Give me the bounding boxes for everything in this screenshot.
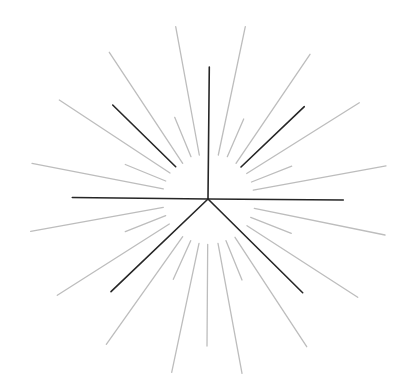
- dark-ray-left: [72, 198, 208, 200]
- gray-ray-line: [106, 237, 182, 345]
- gray-ray-line: [125, 216, 165, 232]
- gray-ray-line: [226, 241, 242, 280]
- dark-ray-lower-right: [208, 199, 303, 293]
- gray-ray-line: [218, 243, 242, 373]
- gray-ray-line: [59, 100, 170, 173]
- dark-ray-up: [208, 67, 209, 199]
- gray-ray-line: [227, 119, 243, 157]
- dark-ray-upper-left: [113, 105, 176, 167]
- radial-burst-diagram: [0, 0, 416, 392]
- gray-ray-line: [218, 27, 245, 155]
- gray-ray-line: [235, 237, 307, 346]
- gray-ray-line: [236, 54, 310, 163]
- gray-ray-line: [57, 224, 169, 295]
- gray-ray-line: [251, 217, 292, 233]
- gray-ray-line: [247, 226, 358, 298]
- gray-ray-line: [176, 27, 200, 155]
- gray-ray-line: [172, 243, 199, 372]
- dark-ray-lower-left: [111, 199, 208, 292]
- gray-ray-line: [247, 103, 360, 174]
- gray-ray-line: [207, 244, 208, 346]
- gray-ray-line: [252, 166, 292, 182]
- dark-ray-right: [208, 199, 343, 200]
- gray-ray-line: [253, 166, 386, 190]
- gray-ray-line: [109, 52, 182, 163]
- gray-ray-line: [175, 117, 191, 156]
- gray-ray-line: [31, 207, 164, 231]
- gray-ray-line: [254, 208, 385, 235]
- gray-ray-line: [125, 165, 165, 182]
- gray-ray-line: [32, 163, 163, 189]
